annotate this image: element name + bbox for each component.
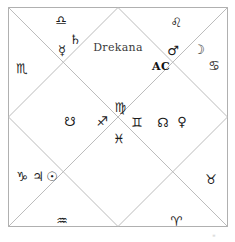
sign-taurus-icon: ♉ <box>205 173 217 186</box>
planet-venus-icon: ♀ <box>177 115 187 128</box>
planet-sun-icon: ☉ <box>46 170 58 183</box>
planet-mercury-icon: ☿ <box>58 44 66 57</box>
drekana-chart: Drekana AC ♎ ♌ ♏ ♋ ♍ ♐ ♊ ♓ ♑ ♉ ♒ ♈ ♄ ☿ ♂… <box>0 0 235 242</box>
planet-ketu-icon: ☋ <box>64 115 76 128</box>
sign-capricorn-icon: ♑ <box>16 170 28 183</box>
planet-mars-icon: ♂ <box>167 44 179 57</box>
chart-grid <box>0 0 235 242</box>
planet-rahu-icon: ☊ <box>157 116 169 129</box>
sign-pisces-icon: ♓ <box>113 132 125 145</box>
sign-virgo-icon: ♍ <box>114 101 126 114</box>
sign-cancer-icon: ♋ <box>208 59 220 72</box>
sign-sagittarius-icon: ♐ <box>96 115 108 128</box>
sign-gemini-icon: ♊ <box>131 116 143 129</box>
sign-scorpio-icon: ♏ <box>16 62 28 75</box>
planet-moon-icon: ☽ <box>193 43 205 56</box>
sign-leo-icon: ♌ <box>170 16 182 29</box>
planet-saturn-icon: ♄ <box>69 33 81 46</box>
ascendant-label: AC <box>152 60 170 73</box>
corner-artifact: ≡ <box>212 233 215 238</box>
sign-libra-icon: ♎ <box>55 14 67 27</box>
planet-jupiter-icon: ♃ <box>32 170 44 183</box>
chart-title: Drekana <box>93 41 143 54</box>
sign-aquarius-icon: ♒ <box>56 214 68 227</box>
sign-aries-icon: ♈ <box>170 215 182 228</box>
